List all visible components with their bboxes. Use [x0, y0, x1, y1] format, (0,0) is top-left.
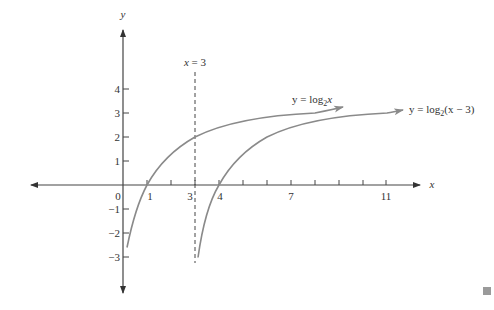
- x-ticks: [147, 180, 386, 185]
- curve-1-label: y = log2x: [292, 93, 332, 108]
- curve-log2-x: [127, 107, 343, 248]
- x-tick-3: 3: [187, 190, 193, 202]
- y-tick-4: 4: [115, 83, 121, 95]
- x-tick-11: 11: [381, 190, 392, 202]
- end-of-example-square-icon: [483, 287, 491, 295]
- log-graph: x = 3 y x 0 1 3 4 7 11 4 3 2 1 −1 −2 −3 …: [0, 0, 494, 310]
- y-axis-label: y: [120, 8, 126, 20]
- curve-2-label: y = log2(x − 3): [409, 103, 475, 118]
- x-tick-1: 1: [147, 190, 153, 202]
- curve-log2-x-minus-3: [198, 110, 403, 258]
- y-tick-3: 3: [115, 107, 121, 119]
- x-tick-4: 4: [217, 190, 223, 202]
- x-tick-0: 0: [115, 190, 121, 202]
- y-ticks: [123, 89, 129, 257]
- asymptote-label: x = 3: [183, 56, 207, 68]
- y-tick-minus-3: −3: [108, 251, 120, 263]
- y-tick-minus-1: −1: [108, 203, 120, 215]
- x-axis-label: x: [429, 178, 435, 190]
- y-tick-minus-2: −2: [108, 227, 120, 239]
- y-tick-1: 1: [115, 155, 121, 167]
- y-tick-2: 2: [115, 131, 121, 143]
- x-tick-7: 7: [288, 190, 294, 202]
